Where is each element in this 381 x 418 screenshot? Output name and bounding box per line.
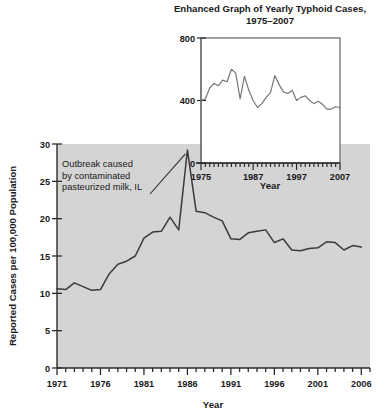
chart-figure: 30 25 20 15 10 5 0 197119761981198619911… [0, 0, 381, 418]
main-xtick-label: 2006 [351, 379, 371, 389]
main-ytick-label: 0 [45, 364, 50, 374]
main-xtick-label: 1976 [90, 379, 110, 389]
main-ytick-label: 25 [40, 177, 50, 187]
annotation-line-2: by contaminated [62, 171, 130, 181]
main-xtick-label: 1981 [134, 379, 154, 389]
annotation-line-3: pasteurized milk, IL [62, 182, 142, 192]
inset-title-line-2: 1975–2007 [246, 15, 294, 26]
main-ytick-label: 10 [40, 289, 50, 299]
inset-ytick-label: 0 [190, 159, 195, 169]
main-ytick-label: 20 [40, 214, 50, 224]
inset-ytick-label: 800 [180, 34, 195, 44]
inset-xtick-label: 1997 [286, 172, 306, 182]
inset-x-axis-title: Year [260, 180, 281, 191]
main-y-axis-title: Reported Cases per 100,000 Population [7, 166, 18, 346]
main-xtick-label: 2001 [308, 379, 328, 389]
inset-plot-background [201, 38, 340, 163]
figure-canvas: 30 25 20 15 10 5 0 197119761981198619911… [0, 0, 381, 418]
main-x-tick-labels: 19711976198119861991199620012006 [47, 379, 372, 389]
main-x-axis-title: Year [203, 399, 224, 410]
main-ytick-label: 5 [45, 326, 50, 336]
main-ytick-label: 15 [40, 252, 50, 262]
inset-ytick-label: 400 [180, 96, 195, 106]
main-xtick-label: 1996 [264, 379, 284, 389]
inset-xtick-label: 1975 [191, 172, 211, 182]
inset-xtick-label: 2007 [330, 172, 350, 182]
main-x-tick-marks [57, 368, 370, 375]
inset-title-line-1: Enhanced Graph of Yearly Typhoid Cases, [174, 3, 366, 14]
main-xtick-label: 1991 [221, 379, 241, 389]
main-ytick-label: 30 [40, 140, 50, 150]
annotation-line-1: Outbreak caused [62, 159, 133, 169]
main-xtick-label: 1986 [177, 379, 197, 389]
main-xtick-label: 1971 [47, 379, 67, 389]
annotation-text: Outbreak caused by contaminated pasteuri… [62, 159, 142, 192]
main-y-tick-labels: 30 25 20 15 10 5 0 [40, 140, 50, 374]
